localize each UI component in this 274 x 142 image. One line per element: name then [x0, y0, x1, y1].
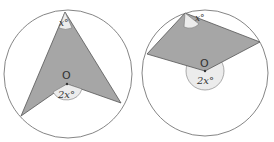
figure-right: O x° 2x° [142, 10, 268, 136]
inscribed-angle-label-right: x° [195, 13, 205, 23]
center-label-left: O [62, 69, 71, 82]
figure-left: O x° 2x° [4, 10, 132, 138]
central-angle-label-left: 2x° [57, 89, 75, 100]
central-angle-label-right: 2x° [196, 75, 214, 86]
center-label-right: O [200, 57, 209, 70]
center-point-right [204, 70, 206, 72]
diagram-canvas: O x° 2x° O x° 2x° [0, 0, 274, 142]
center-point-left [66, 83, 68, 85]
inscribed-angle-label-left: x° [59, 18, 69, 28]
